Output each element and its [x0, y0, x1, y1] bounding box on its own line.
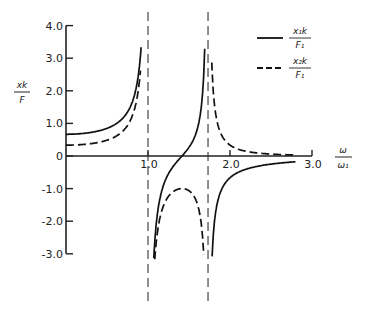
response-curves [66, 47, 295, 259]
x1-response-curve [154, 49, 205, 258]
y-tick-label: 1.0 [46, 117, 64, 130]
axes: 4.03.02.01.00-1.0-2.0-3.01.02.03.0 [42, 20, 322, 261]
legend-label-numerator: x₁k [292, 26, 308, 36]
frequency-response-chart: 4.03.02.01.00-1.0-2.0-3.01.02.03.0 x₁kF₁… [0, 0, 369, 316]
y-tick-label: 3.0 [46, 52, 64, 65]
y-tick-label: -3.0 [42, 248, 63, 261]
legend-label-denominator: F₁ [296, 70, 305, 80]
x-axis-label-denominator: ω₁ [337, 160, 349, 170]
y-tick-label: -2.0 [42, 215, 63, 228]
y-tick-label: -1.0 [42, 183, 63, 196]
legend-label-denominator: F₁ [296, 40, 305, 50]
x-tick-label: 3.0 [304, 158, 322, 171]
legend-label-numerator: x₂k [292, 56, 308, 66]
x2-response-curve [212, 63, 296, 156]
y-tick-label: 0 [56, 150, 63, 163]
y-tick-label: 2.0 [46, 85, 64, 98]
legend: x₁kF₁x₂kF₁ [257, 26, 311, 80]
y-axis-label-denominator: F [19, 95, 25, 105]
y-tick-label: 4.0 [46, 20, 64, 33]
x-tick-label: 2.0 [222, 158, 240, 171]
x1-response-curve [212, 162, 295, 257]
x-axis-label-numerator: ω [339, 145, 347, 155]
x-tick-label: 1.0 [140, 158, 158, 171]
y-axis-label-numerator: xk [16, 80, 28, 90]
x2-response-curve [155, 189, 204, 260]
